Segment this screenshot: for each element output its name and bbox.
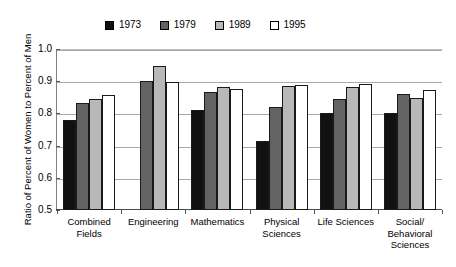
bar-1995[interactable]	[102, 95, 115, 210]
x-axis-label: Mathematics	[185, 216, 249, 251]
bar-1989[interactable]	[89, 99, 102, 210]
bar-1979[interactable]	[269, 107, 282, 210]
bar-1989[interactable]	[282, 86, 295, 210]
legend-item-1989: 1989	[215, 20, 251, 30]
x-axis-label: Combined Fields	[57, 216, 121, 251]
x-tick-mark	[442, 210, 443, 214]
legend-swatch-1979	[160, 21, 169, 30]
legend-swatch-1989	[215, 21, 224, 30]
bar-1979[interactable]	[76, 103, 89, 210]
bar-1989[interactable]	[153, 66, 166, 210]
x-tick-mark	[378, 210, 379, 214]
y-tick-label: 0.9	[26, 76, 52, 86]
chart-legend: 1973 1979 1989 1995	[105, 17, 355, 33]
bar-group	[378, 49, 442, 210]
bar-1995[interactable]	[166, 82, 179, 210]
y-tick-label: 0.8	[26, 108, 52, 118]
y-tick-mark	[56, 113, 60, 114]
y-tick-mark	[56, 178, 60, 179]
x-tick-mark	[121, 210, 122, 214]
bar-1979[interactable]	[397, 94, 410, 210]
y-tick-label: 0.5	[26, 205, 52, 215]
y-tick-mark	[56, 146, 60, 147]
x-axis-labels: Combined FieldsEngineeringMathematicsPhy…	[57, 216, 442, 251]
x-axis-tickmarks	[57, 210, 442, 215]
x-axis-label: Engineering	[121, 216, 185, 251]
bar-1995[interactable]	[359, 84, 372, 210]
legend-label-1973: 1973	[119, 20, 141, 30]
x-tick-mark	[314, 210, 315, 214]
y-tick-mark	[56, 49, 60, 50]
bar-chart: 1973 1979 1989 1995 Ratio of Percent of …	[0, 0, 456, 267]
bar-1973[interactable]	[384, 113, 397, 210]
x-tick-mark	[185, 210, 186, 214]
bar-1989[interactable]	[410, 98, 423, 210]
bar-groups	[57, 49, 442, 210]
legend-label-1979: 1979	[174, 20, 196, 30]
bar-1995[interactable]	[230, 89, 243, 210]
bar-1989[interactable]	[217, 87, 230, 210]
bar-1973[interactable]	[191, 110, 204, 210]
bar-1973[interactable]	[256, 141, 269, 210]
y-tick-label: 0.7	[26, 141, 52, 151]
bar-group	[121, 49, 185, 210]
bar-group	[250, 49, 314, 210]
legend-item-1979: 1979	[160, 20, 196, 30]
legend-swatch-1995	[270, 21, 279, 30]
legend-item-1995: 1995	[270, 20, 306, 30]
bar-1979[interactable]	[140, 81, 153, 210]
x-axis-label: Physical Sciences	[250, 216, 314, 251]
bar-group	[314, 49, 378, 210]
x-tick-mark	[250, 210, 251, 214]
bar-1995[interactable]	[423, 90, 436, 210]
bar-1989[interactable]	[346, 87, 359, 210]
x-axis-label: Social/ Behavioral Sciences	[378, 216, 442, 251]
y-tick-label: 1.0	[26, 44, 52, 54]
y-tick-mark	[56, 210, 60, 211]
legend-label-1995: 1995	[284, 20, 306, 30]
bar-1995[interactable]	[295, 85, 308, 210]
y-tick-label: 0.6	[26, 173, 52, 183]
legend-swatch-1973	[105, 21, 114, 30]
bar-1973[interactable]	[320, 113, 333, 210]
y-axis-ticks: 1.00.90.80.70.60.5	[22, 49, 52, 210]
bar-group	[185, 49, 249, 210]
x-axis-label: Life Sciences	[314, 216, 378, 251]
bar-1979[interactable]	[333, 99, 346, 210]
bar-group	[57, 49, 121, 210]
legend-item-1973: 1973	[105, 20, 141, 30]
legend-label-1989: 1989	[229, 20, 251, 30]
bar-1973[interactable]	[63, 120, 76, 210]
bar-1979[interactable]	[204, 92, 217, 210]
y-tick-mark	[56, 81, 60, 82]
